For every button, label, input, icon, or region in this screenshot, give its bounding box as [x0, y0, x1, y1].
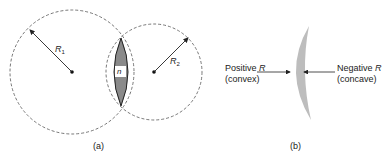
caption-b: (b) [290, 141, 301, 151]
positive-r-label: Positive R [225, 63, 266, 73]
radius-2-label: R2 [170, 56, 180, 69]
radius-1-arrow [30, 30, 72, 72]
index-label: n [117, 67, 121, 77]
concave-label: (concave) [337, 74, 377, 84]
radius-1-label: R1 [55, 44, 65, 57]
negative-r-label: Negative R [337, 63, 382, 73]
meniscus-lens [296, 26, 311, 120]
caption-a: (a) [93, 141, 104, 151]
diagram-canvas [0, 0, 387, 158]
convex-label: (convex) [225, 74, 260, 84]
